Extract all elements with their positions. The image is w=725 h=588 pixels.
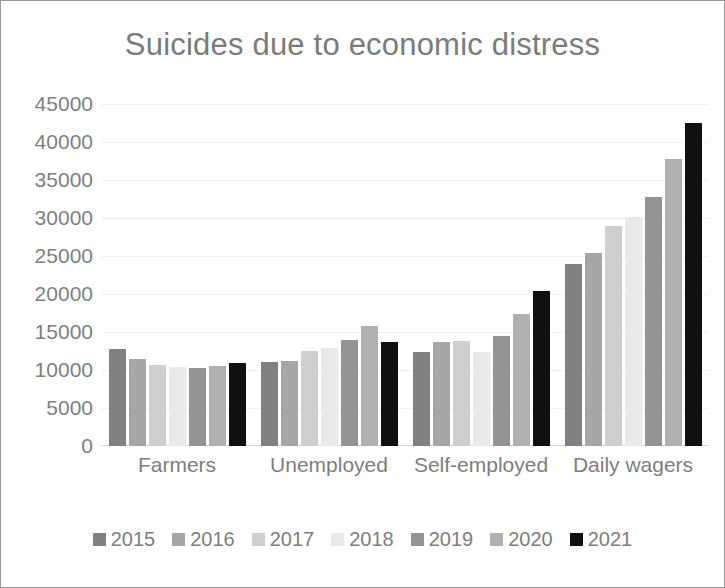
bar[interactable]	[169, 367, 186, 446]
bar[interactable]	[209, 366, 226, 446]
y-axis-tick-label: 0	[5, 434, 93, 458]
bar[interactable]	[301, 351, 318, 446]
bar[interactable]	[473, 352, 490, 446]
bar[interactable]	[341, 340, 358, 446]
y-axis: 4500040000350003000025000200001500010000…	[1, 104, 93, 446]
x-axis-label: Unemployed	[270, 453, 388, 477]
bar-group-self-employed	[405, 104, 557, 446]
legend-swatch-icon	[172, 533, 185, 546]
bar[interactable]	[585, 253, 602, 446]
bar[interactable]	[513, 314, 530, 446]
legend-label: 2021	[588, 529, 633, 549]
legend-label: 2020	[508, 529, 553, 549]
x-axis-categories: FarmersUnemployedSelf-employedDaily wage…	[101, 453, 709, 489]
bar-group-daily-wagers	[557, 104, 709, 446]
y-axis-tick-label: 45000	[5, 92, 93, 116]
y-axis-tick-label: 35000	[5, 168, 93, 192]
bar[interactable]	[433, 342, 450, 447]
legend-label: 2016	[190, 529, 235, 549]
bar[interactable]	[149, 365, 166, 446]
y-axis-tick-label: 40000	[5, 130, 93, 154]
bar[interactable]	[645, 197, 662, 446]
legend-swatch-icon	[490, 533, 503, 546]
bar[interactable]	[453, 341, 470, 446]
x-axis-label: Daily wagers	[573, 453, 693, 477]
y-axis-tick-label: 20000	[5, 282, 93, 306]
x-axis-label: Self-employed	[414, 453, 548, 477]
bar[interactable]	[381, 342, 398, 446]
bar-group-unemployed	[253, 104, 405, 446]
legend-item[interactable]: 2018	[331, 529, 394, 549]
bar[interactable]	[261, 362, 278, 446]
legend-item[interactable]: 2016	[172, 529, 235, 549]
bar[interactable]	[565, 264, 582, 446]
y-axis-tick-label: 5000	[5, 396, 93, 420]
chart-title: Suicides due to economic distress	[1, 27, 724, 63]
legend-item[interactable]: 2015	[93, 529, 156, 549]
bar[interactable]	[109, 349, 126, 446]
chart-container: Suicides due to economic distress 450004…	[0, 0, 725, 588]
legend-item[interactable]: 2017	[252, 529, 315, 549]
y-axis-tick-label: 15000	[5, 320, 93, 344]
bar[interactable]	[321, 348, 338, 446]
bar[interactable]	[533, 291, 550, 446]
legend-item[interactable]: 2020	[490, 529, 553, 549]
legend-label: 2019	[429, 529, 474, 549]
legend-item[interactable]: 2021	[570, 529, 633, 549]
bar[interactable]	[229, 363, 246, 446]
legend-label: 2018	[349, 529, 394, 549]
bar[interactable]	[685, 123, 702, 446]
legend-swatch-icon	[93, 533, 106, 546]
bar[interactable]	[625, 217, 642, 446]
legend-label: 2015	[111, 529, 156, 549]
y-axis-tick-label: 30000	[5, 206, 93, 230]
y-axis-tick-label: 25000	[5, 244, 93, 268]
legend-label: 2017	[270, 529, 315, 549]
legend-swatch-icon	[252, 533, 265, 546]
legend-swatch-icon	[331, 533, 344, 546]
bar[interactable]	[189, 368, 206, 446]
legend-item[interactable]: 2019	[411, 529, 474, 549]
legend-swatch-icon	[411, 533, 424, 546]
bar[interactable]	[129, 359, 146, 446]
bar[interactable]	[605, 226, 622, 446]
y-axis-tick-label: 10000	[5, 358, 93, 382]
legend-swatch-icon	[570, 533, 583, 546]
bar-group-farmers	[101, 104, 253, 446]
bar[interactable]	[413, 352, 430, 446]
bar[interactable]	[493, 336, 510, 446]
bar[interactable]	[665, 159, 682, 446]
bar[interactable]	[361, 326, 378, 446]
chart-legend: 2015201620172018201920202021	[1, 529, 724, 549]
bar[interactable]	[281, 361, 298, 446]
x-axis-label: Farmers	[138, 453, 216, 477]
plot-area	[101, 104, 709, 446]
